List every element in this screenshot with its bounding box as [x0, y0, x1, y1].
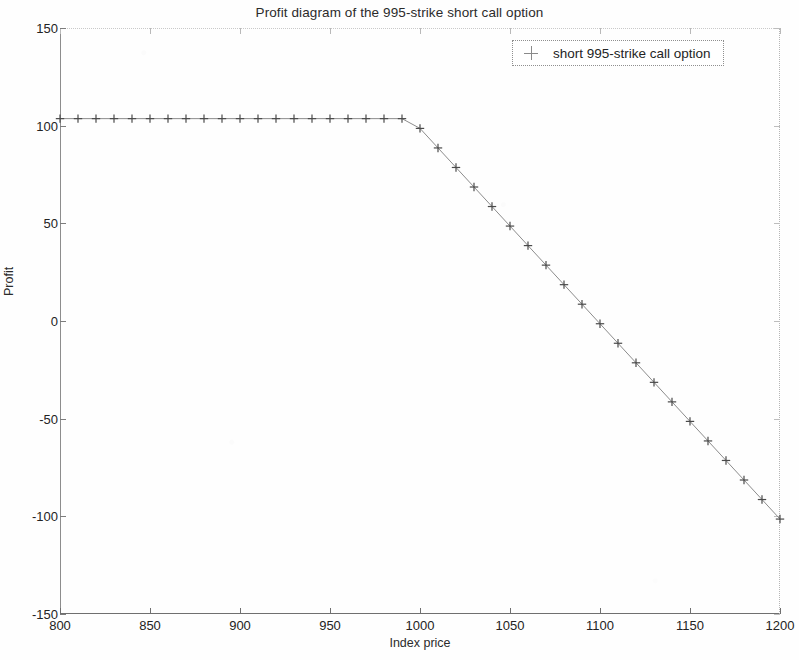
data-point-marker: [326, 114, 334, 122]
y-tick-label: 50: [44, 216, 58, 231]
x-tick-label: 900: [229, 618, 251, 633]
y-tick-right: [774, 614, 780, 615]
data-point-marker: [200, 114, 208, 122]
x-tick-label: 950: [319, 618, 341, 633]
data-point-marker: [164, 114, 172, 122]
data-point-marker: [398, 114, 406, 122]
data-point-marker: [254, 114, 262, 122]
data-point-marker: [308, 114, 316, 122]
data-point-marker: [146, 114, 154, 122]
legend-plus-marker-icon: [523, 45, 539, 61]
data-point-marker: [290, 114, 298, 122]
data-point-marker: [128, 114, 136, 122]
y-tick-label: -50: [39, 411, 58, 426]
series-line: [60, 119, 780, 519]
series-markers: [56, 114, 784, 523]
series-short-call-option: [60, 28, 780, 614]
legend: short 995-strike call option: [512, 40, 724, 66]
plot-area: 80085090095010001050110011501200 1501005…: [60, 28, 780, 614]
x-tick-label: 1000: [406, 618, 435, 633]
y-tick-label: 150: [36, 21, 58, 36]
data-point-marker: [92, 114, 100, 122]
x-tick: [780, 608, 781, 614]
x-tick-label: 850: [139, 618, 161, 633]
data-point-marker: [380, 114, 388, 122]
x-tick-label: 1050: [496, 618, 525, 633]
x-tick-label: 1200: [766, 618, 795, 633]
y-tick-label: 100: [36, 118, 58, 133]
data-point-marker: [272, 114, 280, 122]
data-point-marker: [236, 114, 244, 122]
y-tick: [60, 614, 66, 615]
x-axis-label: Index price: [60, 636, 780, 650]
x-tick-top: [780, 28, 781, 34]
data-point-marker: [74, 114, 82, 122]
y-axis-label: Profit: [2, 267, 16, 296]
legend-entry-label: short 995-strike call option: [553, 46, 711, 61]
data-point-marker: [182, 114, 190, 122]
y-tick-label: 0: [51, 314, 58, 329]
y-tick-label: -150: [32, 607, 58, 622]
x-tick-label: 1150: [676, 618, 704, 633]
page-title: Profit diagram of the 995-strike short c…: [0, 5, 799, 20]
data-point-marker: [344, 114, 352, 122]
x-tick-label: 1100: [586, 618, 614, 633]
data-point-marker: [110, 114, 118, 122]
y-tick-label: -100: [32, 509, 58, 524]
figure-canvas: Profit diagram of the 995-strike short c…: [0, 0, 799, 660]
data-point-marker: [362, 114, 370, 122]
data-point-marker: [218, 114, 226, 122]
